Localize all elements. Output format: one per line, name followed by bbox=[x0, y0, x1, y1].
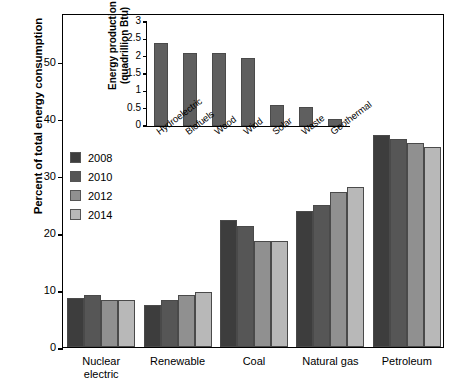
inset-y-axis-label-line1: Energy production bbox=[107, 0, 119, 108]
main-y-tick-label: 20 bbox=[44, 227, 56, 239]
bar-2012 bbox=[330, 192, 347, 347]
inset-y-tick-label: 0 bbox=[135, 119, 141, 130]
inset-y-tick-label: 1 bbox=[135, 84, 141, 95]
bar-2010 bbox=[390, 139, 407, 347]
main-y-tick-label: 30 bbox=[44, 170, 56, 182]
inset-bar-wind bbox=[241, 58, 255, 126]
bar-stack bbox=[369, 15, 445, 347]
bar-2014 bbox=[271, 241, 288, 347]
bar-2014 bbox=[424, 147, 441, 347]
bar-2014 bbox=[347, 187, 364, 347]
bar-2008 bbox=[373, 135, 390, 347]
main-x-tick-label: Nuclearelectric bbox=[82, 355, 120, 381]
main-x-tick-label: Natural gas bbox=[302, 355, 358, 368]
main-x-tick-label-line1: Petroleum bbox=[382, 355, 432, 368]
main-y-axis-label: Percent of total energy consumption bbox=[32, 0, 44, 246]
legend-color-swatch bbox=[70, 171, 81, 182]
main-x-tick-label: Renewable bbox=[150, 355, 205, 368]
bar-2010 bbox=[84, 295, 101, 347]
main-y-tick-label: 0 bbox=[50, 341, 56, 353]
energy-chart-figure: Percent of total energy consumption 0102… bbox=[0, 0, 458, 392]
bar-2014 bbox=[195, 292, 212, 347]
main-y-tick-mark bbox=[58, 348, 63, 349]
main-x-tick-label-line1: Renewable bbox=[150, 355, 205, 368]
inset-y-tick-label: 0.5 bbox=[127, 102, 141, 113]
main-x-tick-label-line1: Natural gas bbox=[302, 355, 358, 368]
bar-2008 bbox=[144, 305, 161, 347]
legend-color-swatch bbox=[70, 190, 81, 201]
main-y-tick-label: 40 bbox=[44, 113, 56, 125]
inset-y-tick-label: 1.5 bbox=[127, 67, 141, 78]
bar-2014 bbox=[118, 300, 135, 347]
main-x-tick-label-line1: Coal bbox=[243, 355, 266, 368]
main-bar-group-petroleum: Petroleum bbox=[369, 15, 445, 347]
inset-bar-slot-geothermal bbox=[320, 22, 349, 126]
inset-bar-slot-waste bbox=[291, 22, 320, 126]
main-y-tick-label: 50 bbox=[44, 56, 56, 68]
main-x-tick-label: Coal bbox=[243, 355, 266, 368]
inset-bar-slot-wind bbox=[234, 22, 263, 126]
inset-chart: Energy production (quadrillion Btu) 00.5… bbox=[104, 16, 354, 192]
inset-bar-hydroelectric bbox=[154, 43, 168, 126]
legend-color-swatch bbox=[70, 152, 81, 163]
main-x-tick-label-line1: Nuclear bbox=[82, 355, 120, 368]
legend-item-label: 2014 bbox=[88, 209, 112, 221]
main-x-tick-label-line2: electric bbox=[82, 368, 120, 381]
main-x-tick-label: Petroleum bbox=[382, 355, 432, 368]
inset-y-tick-label: 2.5 bbox=[127, 32, 141, 43]
bar-2012 bbox=[101, 300, 118, 347]
bar-2012 bbox=[407, 143, 424, 347]
inset-bar-slot-solar bbox=[262, 22, 291, 126]
legend-color-swatch bbox=[70, 209, 81, 220]
bar-2008 bbox=[67, 298, 84, 347]
bar-2012 bbox=[254, 241, 271, 347]
bar-2012 bbox=[178, 295, 195, 347]
bar-2010 bbox=[313, 205, 330, 347]
bar-2010 bbox=[237, 226, 254, 347]
inset-y-axis-label: Energy production (quadrillion Btu) bbox=[107, 0, 130, 108]
legend-item-2014: 2014 bbox=[70, 205, 112, 224]
bar-2010 bbox=[161, 300, 178, 347]
inset-bar-slot-hydroelectric bbox=[147, 22, 176, 126]
bar-2008 bbox=[296, 211, 313, 347]
bar-2008 bbox=[220, 220, 237, 347]
main-y-tick-label: 10 bbox=[44, 284, 56, 296]
inset-y-tick-label: 3 bbox=[135, 15, 141, 26]
inset-y-tick-label: 2 bbox=[135, 50, 141, 61]
inset-y-axis-label-line2: (quadrillion Btu) bbox=[118, 0, 130, 108]
